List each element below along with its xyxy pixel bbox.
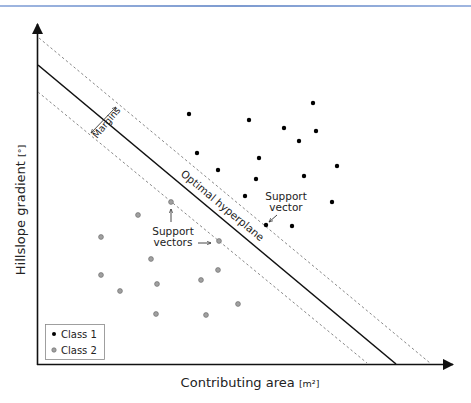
class-1-point xyxy=(254,177,258,181)
class-1-point xyxy=(314,129,318,133)
svm-diagram: Margins Optimal hyperplane Support vecto… xyxy=(0,0,471,403)
class-2-point xyxy=(155,282,160,287)
class-1-point xyxy=(330,200,334,204)
class-1-point xyxy=(247,118,251,122)
legend: Class 1 Class 2 xyxy=(46,325,105,360)
support-vector-label-line2: vector xyxy=(269,201,303,213)
class-1-point xyxy=(195,151,199,155)
class-2-point xyxy=(236,302,241,307)
lower-margin-line xyxy=(38,92,367,363)
class-2-point xyxy=(216,268,221,273)
legend-class-1-marker xyxy=(52,332,56,336)
class-2-point xyxy=(199,278,204,283)
class-2-point xyxy=(204,313,209,318)
class-1-point xyxy=(311,101,315,105)
class-1-point xyxy=(282,126,286,130)
class-1-point xyxy=(335,164,339,168)
legend-class-2-label: Class 2 xyxy=(61,345,97,356)
class-1-point xyxy=(187,112,191,116)
class-2-point xyxy=(217,239,222,244)
x-axis-label: Contributing area [m²] xyxy=(181,375,320,390)
y-axis-label: Hillslope gradient [°] xyxy=(13,145,28,275)
legend-class-2-marker xyxy=(52,348,56,352)
support-vector-arrow xyxy=(269,215,277,222)
class-2-point xyxy=(136,213,141,218)
class-2-point xyxy=(99,273,104,278)
class-1-point xyxy=(264,223,268,227)
upper-margin-line xyxy=(39,38,430,363)
class-2-point xyxy=(169,200,174,205)
optimal-hyperplane-line xyxy=(38,65,396,364)
class-2-point xyxy=(149,257,154,262)
class-1-point xyxy=(302,174,306,178)
class-1-point xyxy=(290,224,294,228)
class-1-point xyxy=(243,194,247,198)
y-axis-unit: [°] xyxy=(16,145,27,157)
x-axis-unit: [m²] xyxy=(299,378,319,389)
y-axis-title: Hillslope gradient xyxy=(13,161,28,275)
support-vectors-label-line2: vectors xyxy=(154,236,193,248)
legend-class-1-label: Class 1 xyxy=(61,329,97,340)
class-2-point xyxy=(154,312,159,317)
class-2-point xyxy=(99,235,104,240)
class-1-point xyxy=(257,156,261,160)
x-axis-title: Contributing area xyxy=(181,375,295,390)
margins-label: Margins xyxy=(90,105,122,141)
class-1-point xyxy=(216,168,220,172)
class-1-point xyxy=(297,139,301,143)
class-2-point xyxy=(118,289,123,294)
